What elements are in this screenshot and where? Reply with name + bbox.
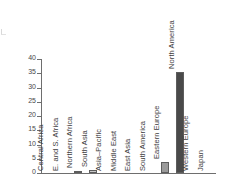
y-tick-mark: [37, 116, 41, 117]
y-tick-label: 40: [28, 54, 36, 62]
x-axis-category-label: Central Africa: [37, 125, 45, 171]
x-axis-category-label: Asia–Pacific: [95, 129, 103, 171]
x-axis-category-label: North America: [168, 20, 176, 69]
bar: [74, 171, 82, 173]
bar-chart-figure: 0510152025303540 Central AfricaE. and S.…: [0, 0, 244, 190]
bar-series: Central AfricaE. and S. AfricaNorthern A…: [42, 59, 216, 173]
y-tick-label: 30: [28, 83, 36, 91]
y-tick-mark: [37, 88, 41, 89]
plot-area: 0510152025303540 Central AfricaE. and S.…: [41, 59, 216, 174]
y-tick-label: 20: [28, 111, 36, 119]
y-tick-label: 35: [28, 68, 36, 76]
y-tick-mark: [37, 102, 41, 103]
x-axis-category-label: Eastern Europe: [153, 105, 161, 159]
y-tick-label: 25: [28, 97, 36, 105]
clipped-artifact-mark: [1, 29, 6, 35]
y-tick-mark: [37, 73, 41, 74]
bar-slot: Eastern Europe: [161, 59, 169, 173]
x-axis-category-label: Western Europe: [182, 116, 190, 171]
x-axis-category-label: E. and S. Africa: [52, 118, 60, 171]
y-tick-mark: [37, 59, 41, 60]
y-tick-label: 10: [28, 140, 36, 148]
x-axis-category-label: South Asia: [81, 130, 89, 167]
x-axis-category-label: South America: [139, 121, 147, 171]
x-axis-category-label: Northern Africa: [66, 116, 74, 168]
y-tick-mark: [37, 173, 41, 174]
x-axis-category-label: Japan: [197, 150, 205, 171]
bar-slot: Japan: [205, 59, 213, 173]
bar: [161, 162, 169, 173]
x-axis-spine: [41, 173, 216, 174]
x-axis-category-label: Middle East: [110, 131, 118, 171]
y-tick-label: 15: [28, 125, 36, 133]
x-axis-category-label: East Asia: [124, 139, 132, 171]
